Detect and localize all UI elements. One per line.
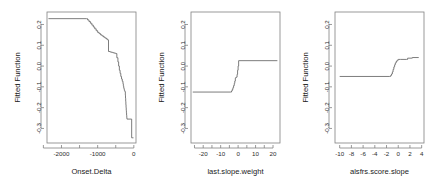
x-tick-label: -2 — [384, 150, 390, 157]
y-tick-label: -0.1 — [323, 81, 330, 92]
y-tick-label: 0.1 — [323, 40, 330, 49]
y-axis-title: Fitted Function — [301, 52, 310, 102]
plot-panel-alsfrs-score-slope: 0.20.10.0-0.1-0.2-0.3Fitted Function-10-… — [288, 0, 432, 186]
x-tick-label: 0 — [397, 150, 401, 157]
y-tick-label: -0.1 — [179, 81, 186, 92]
plot-canvas-1: 0.20.10.0-0.1-0.2-0.3Fitted Function-20-… — [144, 0, 288, 186]
plot-canvas-2: 0.20.10.0-0.1-0.2-0.3Fitted Function-10-… — [288, 0, 432, 186]
y-axis-title: Fitted Function — [157, 52, 166, 102]
y-tick-label: 0.0 — [179, 61, 186, 70]
x-tick-label: 10 — [252, 150, 259, 157]
y-tick-label: -0.2 — [323, 102, 330, 113]
x-tick-label: 0 — [132, 150, 136, 157]
x-tick-label: -10 — [216, 150, 226, 157]
x-tick-label: -8 — [349, 150, 355, 157]
y-tick-label: 0.2 — [323, 20, 330, 29]
x-tick-label: -1000 — [90, 150, 106, 157]
y-tick-label: 0.2 — [179, 20, 186, 29]
fitted-function-panel-grid: 0.20.10.0-0.1-0.2-0.3Fitted Function-200… — [0, 0, 432, 186]
x-tick-label: -6 — [360, 150, 366, 157]
fitted-function-curve — [193, 61, 278, 92]
y-tick-label: 0.2 — [35, 20, 42, 29]
plot-panel-last-slope-weight: 0.20.10.0-0.1-0.2-0.3Fitted Function-20-… — [144, 0, 288, 186]
y-tick-label: -0.2 — [35, 102, 42, 113]
y-tick-label: -0.3 — [323, 123, 330, 134]
x-tick-label: 2 — [408, 150, 412, 157]
y-tick-label: -0.3 — [179, 123, 186, 134]
y-tick-label: -0.3 — [35, 123, 42, 134]
x-tick-label: -2000 — [54, 150, 70, 157]
plot-panel-onset-delta: 0.20.10.0-0.1-0.2-0.3Fitted Function-200… — [0, 0, 144, 186]
x-tick-label: 0 — [236, 150, 240, 157]
plot-frame — [335, 12, 424, 143]
x-tick-label: -20 — [199, 150, 209, 157]
x-tick-label: 20 — [270, 150, 277, 157]
y-tick-label: 0.1 — [179, 40, 186, 49]
y-tick-label: 0.0 — [323, 61, 330, 70]
x-axis-title: alsfrs.score.slope — [350, 167, 409, 176]
fitted-function-curve — [340, 58, 419, 77]
y-axis-title: Fitted Function — [13, 52, 22, 102]
plot-canvas-0: 0.20.10.0-0.1-0.2-0.3Fitted Function-200… — [0, 0, 144, 186]
y-tick-label: -0.1 — [35, 81, 42, 92]
y-tick-label: 0.1 — [35, 40, 42, 49]
x-axis-title: Onset.Delta — [71, 167, 112, 176]
y-tick-label: -0.2 — [179, 102, 186, 113]
x-axis-title: last.slope.weight — [207, 167, 264, 176]
x-tick-label: 4 — [420, 150, 424, 157]
x-tick-label: -10 — [335, 150, 345, 157]
x-tick-label: -4 — [372, 150, 378, 157]
plot-frame — [47, 12, 136, 143]
y-tick-label: 0.0 — [35, 61, 42, 70]
fitted-function-curve — [48, 19, 133, 138]
